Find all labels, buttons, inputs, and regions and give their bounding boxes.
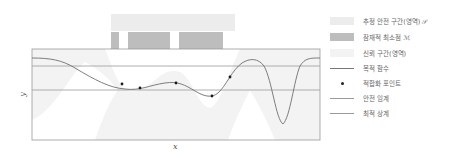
legend-item-confidence: 신뢰 구간(영역) xyxy=(330,48,406,58)
legend-item-fitted-points: 적합화 포인트 xyxy=(330,78,401,88)
threshold-line-icon xyxy=(330,98,354,99)
legend-item-safe-region: 추정 안전 구간(영역) 𝒮 xyxy=(330,16,427,26)
legend-label: 신뢰 구간(영역) xyxy=(363,48,406,58)
legend-label: 안전 임계 xyxy=(363,93,389,103)
legend-item-objective: 목적 함수 xyxy=(330,63,389,73)
legend-item-safety-threshold: 안전 임계 xyxy=(330,93,389,103)
legend-label: 최적 상계 xyxy=(363,108,389,118)
minimizer-bar xyxy=(128,32,170,49)
legend-label: 적합화 포인트 xyxy=(363,78,401,88)
legend-label: 추정 안전 구간(영역) 𝒮 xyxy=(363,16,427,26)
legend-label: 잠재적 최소점 ℳ xyxy=(363,32,410,42)
legend-item-minimizers: 잠재적 최소점 ℳ xyxy=(330,32,410,42)
legend-label: 목적 함수 xyxy=(363,63,389,73)
confidence-region xyxy=(32,49,320,140)
objective-line-icon xyxy=(330,68,354,69)
dot-icon xyxy=(330,79,354,87)
legend-item-upper-bound: 최적 상계 xyxy=(330,108,389,118)
minimizer-bar xyxy=(111,32,119,49)
upper-bound-line-icon xyxy=(330,113,354,114)
safe-region-swatch xyxy=(330,17,354,25)
x-axis-label: x xyxy=(173,142,178,151)
safe-region-bar xyxy=(111,14,235,31)
minimizer-bar xyxy=(179,32,223,49)
y-axis-label: y xyxy=(18,92,27,97)
minimizer-swatch xyxy=(330,33,354,41)
confidence-swatch xyxy=(330,49,354,57)
